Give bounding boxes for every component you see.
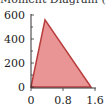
- y-tick-label: 0: [18, 81, 25, 94]
- moment-diagram-chart: 0200400600 00.81.6: [0, 0, 106, 108]
- x-ticks: 00.81.6: [28, 88, 104, 107]
- y-tick-label: 200: [4, 57, 25, 70]
- y-tick-label: 600: [4, 9, 25, 22]
- x-tick-label: 0.8: [54, 94, 72, 107]
- x-tick-label: 1.6: [86, 94, 104, 107]
- moment-area: [31, 20, 91, 87]
- y-tick-label: 400: [4, 33, 25, 46]
- y-ticks: 0200400600: [4, 9, 34, 94]
- x-tick-label: 0: [28, 94, 35, 107]
